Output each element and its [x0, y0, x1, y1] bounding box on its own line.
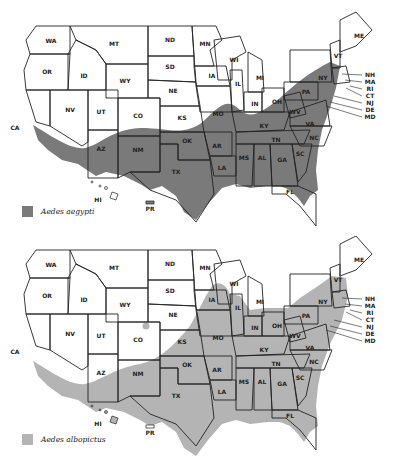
svg-text:WI: WI — [230, 56, 239, 63]
svg-text:NE: NE — [168, 311, 177, 318]
svg-text:WY: WY — [120, 301, 132, 308]
svg-text:CT: CT — [366, 316, 375, 323]
svg-text:TX: TX — [172, 392, 181, 399]
svg-text:NM: NM — [133, 370, 144, 377]
svg-text:MD: MD — [365, 113, 376, 120]
svg-text:IN: IN — [251, 324, 258, 331]
svg-text:WV: WV — [289, 332, 301, 339]
svg-text:LA: LA — [218, 388, 227, 395]
svg-text:SD: SD — [165, 63, 174, 70]
svg-text:CA: CA — [10, 348, 19, 355]
svg-text:TN: TN — [271, 136, 280, 143]
svg-text:PR: PR — [145, 205, 154, 212]
svg-text:KS: KS — [178, 338, 187, 345]
legend-label: Aedes aegypti — [41, 207, 95, 216]
svg-text:HI: HI — [94, 196, 101, 203]
svg-text:FL: FL — [286, 412, 294, 419]
svg-text:IN: IN — [251, 100, 258, 107]
svg-text:IL: IL — [235, 80, 241, 87]
svg-text:ME: ME — [354, 256, 364, 263]
puerto-rico — [146, 201, 154, 204]
svg-text:NY: NY — [318, 298, 328, 305]
svg-text:CO: CO — [133, 112, 143, 119]
svg-text:MI: MI — [256, 74, 264, 81]
svg-text:MN: MN — [200, 264, 211, 271]
svg-text:MS: MS — [239, 154, 249, 161]
svg-text:SC: SC — [296, 374, 305, 381]
svg-text:PA: PA — [302, 312, 311, 319]
svg-text:DE: DE — [365, 106, 374, 113]
svg-text:AZ: AZ — [97, 145, 107, 152]
svg-text:MT: MT — [109, 264, 120, 271]
svg-text:MI: MI — [256, 298, 264, 305]
svg-text:KY: KY — [260, 346, 270, 353]
svg-text:ND: ND — [165, 260, 175, 267]
us-map: WAOR CAID NVMT WYUT AZCO NMND SDNE KSOK … — [0, 0, 397, 236]
svg-text:OR: OR — [42, 292, 52, 299]
svg-text:NH: NH — [365, 295, 375, 302]
callout-labels: NHMA RICT NJDE MD — [365, 295, 376, 344]
svg-text:KY: KY — [260, 122, 270, 129]
svg-text:OK: OK — [182, 361, 192, 368]
svg-text:RI: RI — [367, 309, 374, 316]
svg-text:MA: MA — [365, 302, 376, 309]
svg-text:NC: NC — [309, 134, 319, 141]
svg-text:SC: SC — [296, 150, 305, 157]
svg-text:MO: MO — [212, 334, 223, 341]
svg-text:CO: CO — [133, 336, 143, 343]
isolated-range-spot — [143, 323, 150, 330]
svg-text:AR: AR — [212, 142, 222, 149]
svg-text:MS: MS — [239, 378, 249, 385]
svg-text:ME: ME — [354, 32, 364, 39]
svg-text:UT: UT — [97, 108, 107, 115]
svg-text:NE: NE — [168, 87, 177, 94]
map-aedes-albopictus: WAOR CAID NVMT WYUT AZCO NMND SDNE KSOK … — [0, 236, 397, 472]
svg-text:MT: MT — [109, 40, 120, 47]
svg-text:VT: VT — [334, 52, 344, 59]
svg-text:OR: OR — [42, 68, 52, 75]
svg-text:GA: GA — [277, 156, 287, 163]
svg-text:MN: MN — [200, 40, 211, 47]
svg-text:CA: CA — [10, 124, 19, 131]
svg-text:PA: PA — [302, 88, 311, 95]
svg-text:NH: NH — [365, 71, 375, 78]
svg-text:FL: FL — [286, 188, 294, 195]
svg-text:ND: ND — [165, 36, 175, 43]
legend-swatch — [22, 434, 33, 445]
puerto-rico — [146, 425, 154, 428]
svg-text:IA: IA — [209, 296, 216, 303]
svg-text:AL: AL — [258, 378, 267, 385]
svg-text:NM: NM — [133, 146, 144, 153]
svg-text:RI: RI — [367, 85, 374, 92]
svg-text:VA: VA — [306, 344, 315, 351]
svg-text:PR: PR — [145, 429, 154, 436]
svg-text:MO: MO — [212, 110, 223, 117]
svg-text:OH: OH — [272, 322, 282, 329]
svg-text:IA: IA — [209, 72, 216, 79]
legend-albopictus: Aedes albopictus — [22, 434, 106, 445]
svg-text:NV: NV — [65, 330, 75, 337]
svg-text:ID: ID — [80, 72, 87, 79]
svg-text:AR: AR — [212, 366, 222, 373]
svg-text:OK: OK — [182, 137, 192, 144]
svg-text:SD: SD — [165, 287, 174, 294]
svg-text:DE: DE — [365, 330, 374, 337]
svg-text:MD: MD — [365, 337, 376, 344]
svg-text:VA: VA — [306, 120, 315, 127]
svg-text:NY: NY — [318, 74, 328, 81]
svg-text:IL: IL — [235, 304, 241, 311]
svg-text:WA: WA — [46, 261, 57, 268]
svg-text:KS: KS — [178, 114, 187, 121]
svg-text:MA: MA — [365, 78, 376, 85]
legend-swatch — [22, 206, 33, 217]
legend-aegypti: Aedes aegypti — [22, 206, 95, 217]
svg-text:OH: OH — [272, 98, 282, 105]
svg-text:WI: WI — [230, 280, 239, 287]
svg-text:WY: WY — [120, 77, 132, 84]
svg-text:ID: ID — [80, 296, 87, 303]
svg-text:AL: AL — [258, 154, 267, 161]
svg-text:WV: WV — [289, 108, 301, 115]
svg-text:UT: UT — [97, 332, 107, 339]
svg-text:NV: NV — [65, 106, 75, 113]
legend-label: Aedes albopictus — [41, 435, 106, 444]
